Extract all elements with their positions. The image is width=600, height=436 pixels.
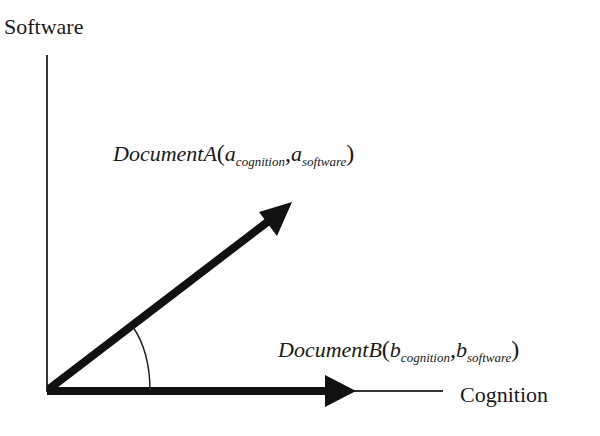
y-axis-label: Software bbox=[4, 14, 83, 40]
vector-b-sub-software: software bbox=[467, 350, 511, 365]
vector-a-sub-cognition: cognition bbox=[236, 154, 285, 169]
vector-space-diagram: Software Cognition DocumentA(acognition,… bbox=[0, 0, 600, 436]
vector-a-label: DocumentA(acognition,asoftware) bbox=[113, 140, 354, 170]
vector-a-arrowhead bbox=[259, 202, 292, 236]
vector-a-shaft bbox=[49, 220, 270, 389]
angle-arc bbox=[133, 327, 150, 391]
vector-b-name: DocumentB bbox=[278, 337, 382, 362]
vector-a-sub-software: software bbox=[302, 154, 346, 169]
vector-b-label: DocumentB(bcognition,bsoftware) bbox=[278, 336, 519, 366]
vector-b-sub-cognition: cognition bbox=[401, 350, 450, 365]
diagram-canvas bbox=[0, 0, 600, 436]
vector-a-name: DocumentA bbox=[113, 141, 217, 166]
x-axis-label: Cognition bbox=[460, 382, 548, 408]
vector-b-arrowhead bbox=[325, 375, 356, 407]
